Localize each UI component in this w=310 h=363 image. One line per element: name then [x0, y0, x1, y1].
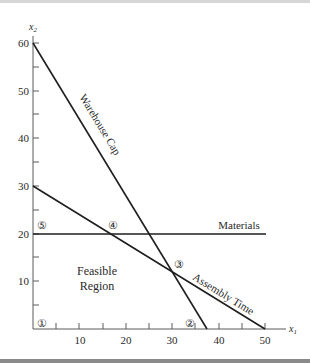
y-tick-50: 50	[18, 85, 30, 97]
y-tick-60: 60	[18, 37, 30, 49]
x-tick-10: 10	[75, 334, 87, 346]
y-tick-30: 30	[18, 180, 30, 192]
y-tick-10: 10	[18, 275, 30, 287]
bottom-border	[0, 359, 310, 363]
constraint-lines	[33, 43, 266, 329]
y-axis-label: x2	[28, 21, 37, 34]
axes	[33, 36, 286, 329]
assembly-time-label: Assembly Time	[191, 270, 256, 317]
corner-point-1: ①	[37, 317, 47, 329]
y-tick-20: 20	[18, 228, 30, 240]
corner-point-2: ②	[185, 317, 195, 329]
y-tick-40: 40	[18, 132, 30, 144]
corner-point-3: ③	[174, 258, 184, 270]
lp-feasible-region-chart: 10 20 30 40 50 60 10 20 30 40 50 x2 x1 W…	[0, 0, 310, 363]
corner-point-5: ⑤	[37, 219, 47, 231]
warehouse-cap-line	[33, 43, 207, 329]
materials-label: Materials	[218, 219, 260, 231]
corner-point-4: ④	[108, 219, 118, 231]
x-tick-50: 50	[260, 334, 272, 346]
x-axis-label: x1	[288, 323, 297, 336]
y-tick-labels: 10 20 30 40 50 60	[18, 37, 30, 287]
assembly-time-line	[33, 186, 265, 329]
x-tick-labels: 10 20 30 40 50	[75, 334, 272, 346]
x-tick-20: 20	[121, 334, 133, 346]
feasible-region-label-line1: Feasible	[77, 264, 117, 278]
x-ticks	[56, 323, 265, 329]
x-tick-40: 40	[214, 334, 226, 346]
x-tick-30: 30	[167, 334, 179, 346]
feasible-region-label-line2: Region	[80, 279, 115, 293]
y-ticks	[33, 43, 39, 305]
warehouse-cap-label: Warehouse Cap	[77, 92, 123, 158]
